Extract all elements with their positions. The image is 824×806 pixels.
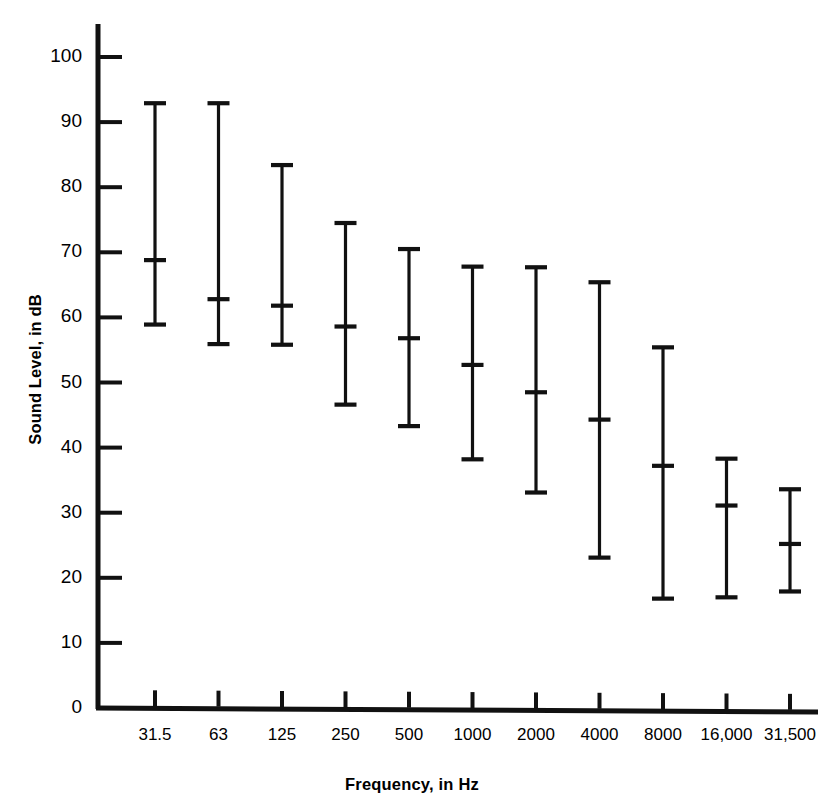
error-bar [652,347,674,598]
chart-figure: Sound Level, in dB Frequency, in Hz 0102… [0,0,824,806]
y-axis-tick-label: 100 [26,46,82,65]
error-bar [335,223,357,405]
error-bar [398,249,420,426]
error-bar [779,489,801,591]
x-axis-tick-label: 8000 [644,726,682,743]
error-bar [525,267,547,492]
x-axis-tick-label: 250 [331,726,359,743]
error-bar [208,103,230,344]
x-axis-tick-label: 1000 [454,726,492,743]
y-axis-tick-label: 80 [26,176,82,195]
x-axis-spine [96,708,818,712]
y-axis-tick-label: 0 [26,697,82,716]
y-axis-tick-label: 60 [26,306,82,325]
x-axis-tick-label: 63 [209,726,228,743]
x-axis-tick-label: 31.5 [138,726,171,743]
x-axis-tick-label: 125 [268,726,296,743]
y-axis-tick-label: 40 [26,437,82,456]
x-axis-tick-label: 31,500 [764,726,816,743]
error-bar [462,267,484,460]
plot-area [0,0,824,806]
x-axis-tick-label: 2000 [517,726,555,743]
error-bar [589,282,611,557]
axis-lines [96,24,818,712]
y-axis-tick-label: 90 [26,111,82,130]
y-axis-tick-label: 20 [26,567,82,586]
error-bar [716,459,738,598]
error-bar-group [144,103,801,598]
error-bar [271,165,293,345]
y-axis-tick-label: 70 [26,241,82,260]
y-axis-ticks [98,57,122,643]
y-axis-tick-label: 30 [26,502,82,521]
y-axis-tick-label: 10 [26,632,82,651]
error-bar [144,103,166,324]
x-axis-tick-label: 4000 [581,726,619,743]
x-axis-tick-label: 16,000 [701,726,753,743]
y-axis-tick-label: 50 [26,372,82,391]
x-axis-tick-label: 500 [395,726,423,743]
